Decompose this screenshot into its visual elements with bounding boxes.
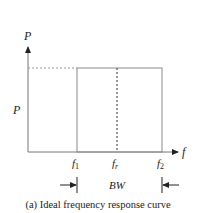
f2-label: f2 bbox=[157, 157, 164, 171]
x-axis-label: f bbox=[182, 145, 187, 159]
fr-label: fr bbox=[112, 157, 119, 171]
f1-label: f1 bbox=[72, 157, 79, 171]
frequency-response-diagram: P f P f1 fr f2 BW (a) Ideal frequency re… bbox=[0, 0, 197, 213]
caption: (a) Ideal frequency response curve bbox=[25, 199, 171, 211]
level-label: P bbox=[12, 103, 21, 117]
y-axis-label: P bbox=[23, 29, 32, 43]
bandwidth-label: BW bbox=[109, 179, 126, 191]
ideal-response-rectangle bbox=[77, 68, 162, 152]
